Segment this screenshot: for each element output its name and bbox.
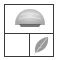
thumbnail-frame bbox=[4, 4, 54, 57]
bottom-left-panel bbox=[5, 34, 30, 56]
dome-shell-icon bbox=[5, 5, 53, 33]
bottom-right-panel bbox=[30, 34, 53, 56]
top-panel bbox=[5, 5, 53, 34]
leaf-icon bbox=[30, 34, 53, 56]
